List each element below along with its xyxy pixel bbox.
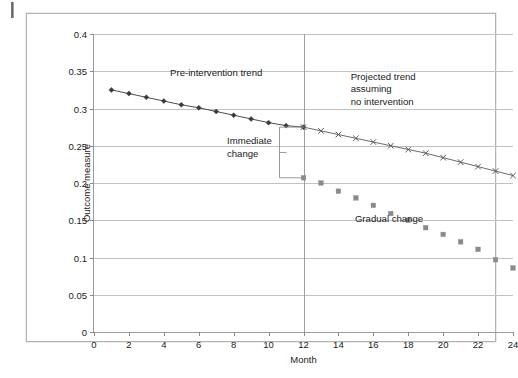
x-tick-label: 6 <box>196 339 201 350</box>
marker-diamond <box>144 95 149 100</box>
chart-outer-frame: 00.050.10.150.20.250.30.350.4 0246810121… <box>26 13 496 342</box>
x-tick-label: 20 <box>438 339 449 350</box>
x-tick-label: 4 <box>161 339 166 350</box>
x-tick-mark <box>164 332 165 336</box>
y-tick-label: 0.4 <box>74 29 87 40</box>
series-cross <box>301 124 516 178</box>
plot-area: 00.050.10.150.20.250.30.350.4 0246810121… <box>93 34 513 333</box>
marker-square <box>354 196 359 201</box>
marker-square <box>441 232 446 237</box>
x-tick-label: 12 <box>298 339 309 350</box>
x-tick-mark <box>513 332 514 336</box>
x-tick-label: 22 <box>473 339 484 350</box>
marker-square <box>371 203 376 208</box>
marker-diamond <box>109 87 114 92</box>
marker-diamond <box>179 102 184 107</box>
marker-diamond <box>266 120 271 125</box>
scan-edge-artifact <box>11 2 14 18</box>
marker-square <box>493 257 498 262</box>
marker-diamond <box>161 99 166 104</box>
marker-square <box>336 189 341 194</box>
marker-diamond <box>214 109 219 114</box>
gradual-change-label: Gradual change <box>355 213 423 226</box>
x-tick-mark <box>129 332 130 336</box>
marker-cross <box>493 168 499 174</box>
y-axis-title: Outcome measure <box>81 144 92 222</box>
marker-square <box>511 266 516 271</box>
marker-square <box>476 247 481 252</box>
x-tick-mark <box>373 332 374 336</box>
immediate-change-bracket <box>280 127 304 178</box>
series-diamond <box>109 87 306 129</box>
marker-square <box>458 240 463 245</box>
x-tick-mark <box>408 332 409 336</box>
marker-diamond <box>196 105 201 110</box>
marker-diamond <box>126 91 131 96</box>
x-tick-label: 2 <box>126 339 131 350</box>
marker-square <box>319 181 324 186</box>
immediate-change-label: Immediate change <box>227 135 272 160</box>
marker-diamond <box>231 113 236 118</box>
x-tick-mark <box>234 332 235 336</box>
marker-cross <box>458 159 464 165</box>
pre-intervention-trend-label: Pre-intervention trend <box>170 66 262 79</box>
y-tick-label: 0.3 <box>74 103 87 114</box>
marker-cross <box>475 164 481 170</box>
x-tick-mark <box>443 332 444 336</box>
marker-cross <box>440 155 446 161</box>
x-tick-mark <box>338 332 339 336</box>
x-tick-label: 16 <box>368 339 379 350</box>
series-line <box>111 90 303 127</box>
projected-trend-label: Projected trend assuming no intervention <box>351 71 459 109</box>
y-tick-label: 0 <box>82 327 87 338</box>
x-tick-label: 10 <box>263 339 274 350</box>
x-tick-mark <box>269 332 270 336</box>
marker-cross <box>510 173 516 179</box>
x-tick-label: 8 <box>231 339 236 350</box>
x-tick-mark <box>94 332 95 336</box>
x-tick-label: 0 <box>91 339 96 350</box>
x-tick-mark <box>199 332 200 336</box>
x-tick-label: 24 <box>508 339 518 350</box>
y-tick-label: 0.35 <box>69 66 88 77</box>
y-tick-label: 0.1 <box>74 252 87 263</box>
y-tick-label: 0.05 <box>69 289 88 300</box>
x-tick-mark <box>304 332 305 336</box>
x-tick-mark <box>478 332 479 336</box>
x-tick-label: 18 <box>403 339 414 350</box>
marker-diamond <box>249 116 254 121</box>
marker-square <box>423 225 428 230</box>
x-axis-title: Month <box>290 354 316 365</box>
series-line <box>304 127 514 175</box>
x-tick-label: 14 <box>333 339 344 350</box>
